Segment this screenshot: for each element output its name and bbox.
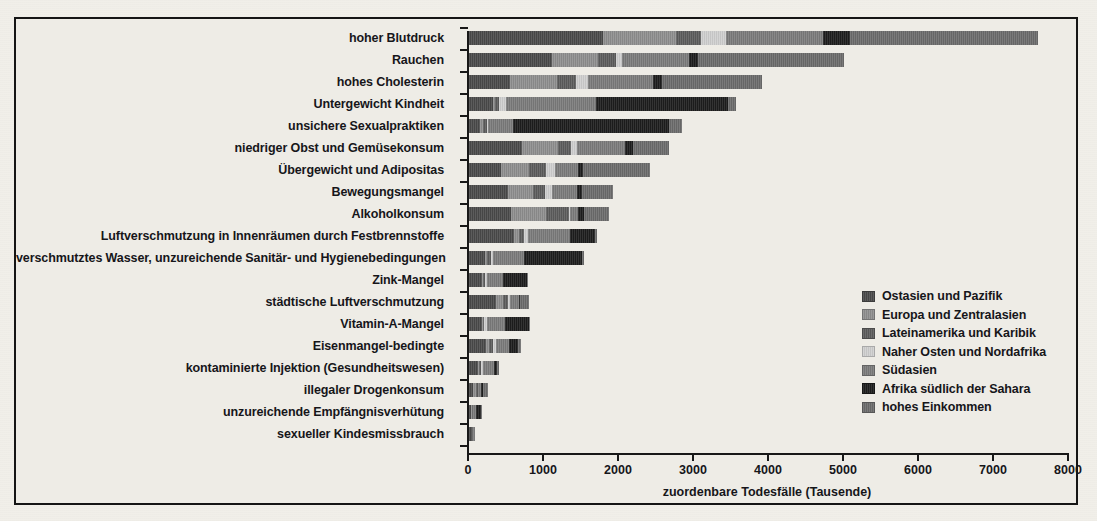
bar-segment — [501, 163, 530, 177]
stacked-bar — [469, 251, 584, 265]
y-axis-tick — [460, 159, 468, 161]
y-axis-tick — [460, 225, 468, 227]
bar-segment — [483, 361, 494, 375]
bar-segment — [488, 119, 514, 133]
category-label: verschmutztes Wasser, unzureichende Sani… — [16, 247, 452, 269]
stacked-bar — [469, 119, 682, 133]
legend-label: hohes Einkommen — [882, 400, 992, 414]
legend-swatch — [862, 309, 875, 320]
legend: Ostasien und PazifikEuropa und Zentralas… — [862, 287, 1046, 417]
y-axis-tick — [460, 49, 468, 51]
bar-segment — [529, 317, 530, 331]
stacked-bar — [469, 405, 482, 419]
x-axis-tick — [692, 453, 694, 461]
bar-segment — [487, 317, 506, 331]
y-axis-tick — [460, 313, 468, 315]
stacked-bar — [469, 185, 613, 199]
category-label: hohes Cholesterin — [16, 71, 452, 93]
legend-item: Naher Osten und Nordafrika — [862, 343, 1046, 362]
legend-item: Europa und Zentralasien — [862, 306, 1046, 325]
bar-row — [469, 423, 1069, 445]
y-axis-tick — [460, 71, 468, 73]
y-axis-tick — [460, 181, 468, 183]
x-axis-tick-label: 8000 — [1054, 463, 1082, 477]
legend-item: Lateinamerika und Karibik — [862, 324, 1046, 343]
category-label-column: hoher BlutdruckRauchenhohes CholesterinU… — [16, 27, 452, 445]
bar-segment — [850, 31, 1038, 45]
y-axis-tick — [460, 401, 468, 403]
bar-segment — [481, 405, 482, 419]
category-label: kontaminierte Injektion (Gesundheitswese… — [16, 357, 452, 379]
x-axis-tick — [1067, 453, 1069, 461]
y-axis-tick — [460, 357, 468, 359]
x-axis-tick-label: 0 — [465, 463, 472, 477]
bar-segment — [582, 185, 614, 199]
bar-row — [469, 225, 1069, 247]
bar-row — [469, 137, 1069, 159]
chart-frame: hoher BlutdruckRauchenhohes CholesterinU… — [14, 17, 1078, 505]
stacked-bar — [469, 273, 528, 287]
bar-segment — [497, 361, 499, 375]
bar-segment — [529, 163, 546, 177]
figure-page: hoher BlutdruckRauchenhohes CholesterinU… — [0, 0, 1097, 521]
bar-segment — [622, 53, 690, 67]
stacked-bar — [469, 295, 529, 309]
y-axis-tick — [460, 379, 468, 381]
bar-segment — [506, 97, 596, 111]
category-label: Rauchen — [16, 49, 452, 71]
bar-row — [469, 247, 1069, 269]
bar-segment — [583, 163, 651, 177]
bar-segment — [469, 185, 508, 199]
bar-segment — [669, 119, 682, 133]
bar-segment — [662, 75, 762, 89]
x-axis-tick-label: 7000 — [979, 463, 1007, 477]
stacked-bar — [469, 75, 762, 89]
stacked-bar — [469, 31, 1038, 45]
x-axis-tick — [467, 453, 469, 461]
stacked-bar — [469, 361, 499, 375]
stacked-bar — [469, 427, 475, 441]
category-label: Zink-Mangel — [16, 269, 452, 291]
legend-label: Lateinamerika und Karibik — [882, 326, 1036, 340]
y-axis-tick — [460, 115, 468, 117]
y-axis-tick — [460, 27, 468, 29]
legend-swatch — [862, 291, 875, 302]
bar-segment — [469, 141, 522, 155]
bar-segment — [545, 185, 552, 199]
x-axis-tick — [767, 453, 769, 461]
bar-segment — [527, 273, 529, 287]
bar-segment — [469, 273, 482, 287]
x-axis-tick — [992, 453, 994, 461]
bar-segment — [469, 119, 480, 133]
category-label: Bewegungsmangel — [16, 181, 452, 203]
bar-row — [469, 115, 1069, 137]
bar-segment — [510, 75, 557, 89]
y-axis-tick — [460, 93, 468, 95]
legend-label: Südasien — [882, 363, 937, 377]
category-label: illegaler Drogenkonsum — [16, 379, 452, 401]
category-label: unsichere Sexualpraktiken — [16, 115, 452, 137]
legend-swatch — [862, 346, 875, 357]
legend-item: Südasien — [862, 361, 1046, 380]
bar-segment — [505, 317, 529, 331]
y-axis-tick — [460, 445, 468, 447]
category-label: Untergewicht Kindheit — [16, 93, 452, 115]
bar-segment — [528, 229, 570, 243]
stacked-bar — [469, 229, 597, 243]
category-label: Vitamin-A-Mangel — [16, 313, 452, 335]
bar-row — [469, 203, 1069, 225]
bar-segment — [584, 207, 609, 221]
bar-segment — [469, 97, 493, 111]
bar-segment — [701, 31, 726, 45]
bar-row — [469, 49, 1069, 71]
x-axis-tick-label: 3000 — [679, 463, 707, 477]
stacked-bar — [469, 53, 844, 67]
bar-segment — [510, 295, 519, 309]
y-axis-tick — [460, 137, 468, 139]
y-axis-tick — [460, 335, 468, 337]
bar-segment — [503, 273, 527, 287]
bar-segment — [499, 97, 506, 111]
x-axis-tick-label: 1000 — [529, 463, 557, 477]
bar-segment — [469, 251, 485, 265]
legend-swatch — [862, 365, 875, 376]
